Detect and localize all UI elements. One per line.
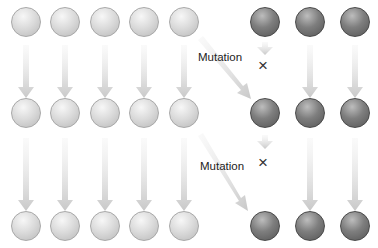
light-ball <box>50 98 80 128</box>
light-ball <box>169 211 199 241</box>
dark-ball <box>340 98 370 128</box>
dark-ball <box>295 98 325 128</box>
cross-icon: × <box>258 57 268 74</box>
light-ball <box>90 211 120 241</box>
light-ball <box>169 98 199 128</box>
dark-ball <box>340 7 370 37</box>
mutation-label: Mutation <box>200 160 244 172</box>
light-ball <box>11 211 41 241</box>
light-ball <box>90 7 120 37</box>
dark-ball <box>295 7 325 37</box>
light-ball <box>11 98 41 128</box>
light-ball <box>169 7 199 37</box>
light-ball <box>129 98 159 128</box>
mutation-label: Mutation <box>198 51 242 63</box>
dark-ball <box>340 211 370 241</box>
light-ball <box>50 7 80 37</box>
light-ball <box>90 98 120 128</box>
dark-ball <box>250 7 280 37</box>
light-ball <box>50 211 80 241</box>
light-ball <box>11 7 41 37</box>
light-ball <box>129 211 159 241</box>
cross-icon: × <box>258 154 268 171</box>
dark-ball <box>250 211 280 241</box>
light-ball <box>129 7 159 37</box>
mutation-diagram: Mutation × Mutation × <box>0 0 378 248</box>
dark-ball <box>250 98 280 128</box>
dark-ball <box>295 211 325 241</box>
